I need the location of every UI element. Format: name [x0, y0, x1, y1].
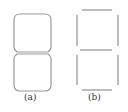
figure-a-lower-cell [14, 54, 51, 91]
figure-a-label: (a) [24, 92, 36, 102]
figure-a-upper-cell [14, 14, 51, 52]
diagram-canvas [0, 0, 128, 112]
figure-b [77, 10, 118, 90]
figure-a [14, 14, 51, 91]
figure-b-label: (b) [88, 92, 101, 102]
